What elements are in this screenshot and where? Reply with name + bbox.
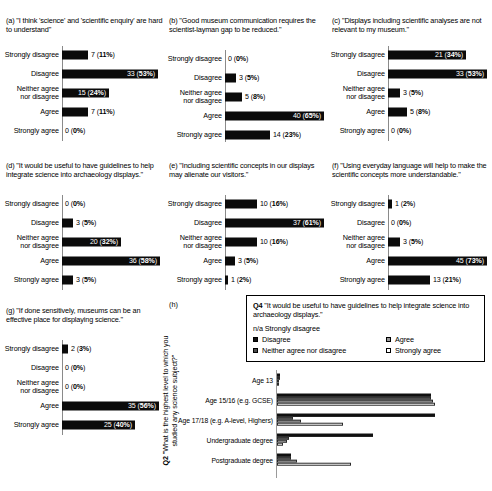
bar-row: Neither agree nor disagree 5 (8%): [163, 88, 327, 105]
crosstab-plot: Q2 "What is the highest level to which y…: [163, 370, 492, 480]
bar: [62, 275, 73, 284]
bar-group: 37 (61%): [225, 218, 324, 227]
bar: [225, 199, 257, 208]
category-label: Neither agree nor disagree: [17, 378, 59, 394]
bar-value: 37 (61%): [293, 219, 321, 227]
bar-disagree: [277, 434, 373, 437]
bar-value: 33 (53%): [127, 70, 155, 78]
bar-row: Disagree 3 (5%): [163, 69, 327, 86]
bar-group: [277, 434, 373, 447]
likert-panel-c: (c) "Displays including scientific analy…: [326, 2, 490, 147]
figure-root: (a) "I think 'science' and 'scientific e…: [0, 0, 492, 491]
bar-strongly-agree: [277, 423, 343, 426]
bar-row: Strongly disagree 10 (16%): [163, 195, 327, 212]
bar-value: 3 (5%): [76, 219, 96, 227]
bar-row: Strongly agree 25 (40%): [0, 416, 164, 433]
bar-value: 0 (0%): [391, 219, 411, 227]
crosstab-row: Undergraduate degree: [163, 430, 492, 450]
bar: [62, 107, 88, 116]
bar: [388, 88, 400, 97]
bar-row: Neither agree nor disagree 3 (5%): [326, 233, 490, 250]
bar-row: Strongly agree 13 (21%): [326, 271, 490, 288]
bar-strongly-agree: [277, 463, 351, 466]
panel-caption: (b) "Good museum communication requires …: [169, 16, 327, 34]
bar-row: Neither agree nor disagree 20 (32%): [0, 233, 164, 250]
bar-group: 36 (58%): [62, 256, 160, 265]
bar-value: 0 (0%): [65, 127, 85, 135]
category-label: Strongly disagree: [168, 199, 222, 207]
bar: [62, 50, 88, 59]
panel-plot: Strongly disagree 1 (2%) Disagree 0 (0%)…: [326, 195, 490, 290]
bar-group: 5 (8%): [388, 107, 430, 116]
bar-group: 3 (5%): [225, 256, 258, 265]
category-label: Disagree: [31, 363, 59, 371]
crosstab-row: Postgraduate degree: [163, 450, 492, 470]
bar-group: 0 (0%): [388, 218, 411, 227]
category-label: Neither agree nor disagree: [343, 84, 385, 100]
bar-value: 0 (0%): [65, 200, 85, 208]
bar: 33 (53%): [62, 69, 158, 78]
likert-panel-f: (f) "Using everyday language will help t…: [326, 147, 490, 292]
bar-row: Strongly disagree 7 (11%): [0, 46, 164, 63]
category-label: Neither agree nor disagree: [180, 88, 222, 104]
bar-row: Neither agree nor disagree 15 (24%): [0, 84, 164, 101]
bar: [225, 73, 236, 82]
bar: [225, 92, 242, 101]
bar-row: Disagree 33 (53%): [326, 65, 490, 82]
bar-strongly-agree: [277, 443, 283, 446]
legend-item-agree: Agree: [386, 335, 478, 344]
bar-value: 3 (5%): [403, 238, 423, 246]
legend-box: Q4 "It would be useful to have guideline…: [246, 295, 485, 362]
bar-strongly-agree: [277, 403, 435, 406]
category-label: Disagree: [31, 69, 59, 77]
category-label: Strongly disagree: [5, 50, 59, 58]
category-label: Postgraduate degree: [211, 457, 273, 464]
bar: 25 (40%): [62, 420, 135, 429]
crosstab-row: Age 15/16 (e.g. GCSE): [163, 390, 492, 410]
panel-caption: (e) "Including scientific concepts in ou…: [169, 161, 327, 179]
legend-label: Disagree: [262, 335, 290, 344]
category-label: Strongly agree: [177, 130, 222, 138]
category-label: Agree: [40, 107, 59, 115]
bar-row: Strongly disagree 0 (0%): [163, 50, 327, 67]
bar-group: 35 (56%): [62, 401, 159, 410]
bar-value: 3 (5%): [239, 74, 259, 82]
bar-group: 10 (16%): [225, 237, 288, 246]
bar: 21 (34%): [388, 50, 466, 59]
bar-group: 21 (34%): [388, 50, 466, 59]
legend-swatch-icon: [386, 337, 391, 342]
bar-group: 3 (5%): [62, 218, 96, 227]
bar-value: 33 (53%): [456, 70, 484, 78]
bar-group: 0 (0%): [388, 126, 411, 135]
bar-value: 0 (0%): [65, 364, 85, 372]
bar: [388, 275, 430, 284]
bar-value: 3 (5%): [403, 89, 423, 97]
bar-group: 10 (16%): [225, 199, 288, 208]
legend-question: Q4 "It would be useful to have guideline…: [253, 301, 478, 319]
bar: 37 (61%): [225, 218, 324, 227]
category-label: Strongly disagree: [5, 344, 59, 352]
category-label: Age 17/18 (e.g. A-level, Highers): [178, 417, 273, 424]
legend-label: Strongly agree: [395, 346, 441, 355]
bar-value: 40 (65%): [293, 112, 321, 120]
bar: 35 (56%): [62, 401, 159, 410]
bar-row: Agree 40 (65%): [163, 107, 327, 124]
bar-value: 35 (56%): [128, 402, 156, 410]
category-label: Neither agree nor disagree: [180, 233, 222, 249]
category-label: Strongly agree: [340, 126, 385, 134]
legend-swatch-icon: [253, 348, 258, 353]
bar-value: 5 (8%): [245, 93, 265, 101]
bar-row: Strongly agree 1 (2%): [163, 271, 327, 288]
bar-row: Strongly agree 3 (5%): [0, 271, 164, 288]
bar-group: 1 (2%): [388, 199, 415, 208]
panel-caption: (c) "Displays including scientific analy…: [332, 16, 490, 34]
bar-group: 33 (53%): [388, 69, 487, 78]
bar-group: 7 (11%): [62, 50, 115, 59]
category-label: Neither agree nor disagree: [17, 233, 59, 249]
bar-value: 1 (2%): [231, 276, 251, 284]
panel-caption: (g) "If done sensitively, museums can be…: [6, 306, 164, 324]
legend-items: Disagree Agree Neither agree nor disagre…: [253, 335, 478, 355]
bar-group: 7 (11%): [62, 107, 115, 116]
bar-value: 1 (2%): [395, 200, 415, 208]
bar-row: Strongly agree 0 (0%): [326, 122, 490, 139]
